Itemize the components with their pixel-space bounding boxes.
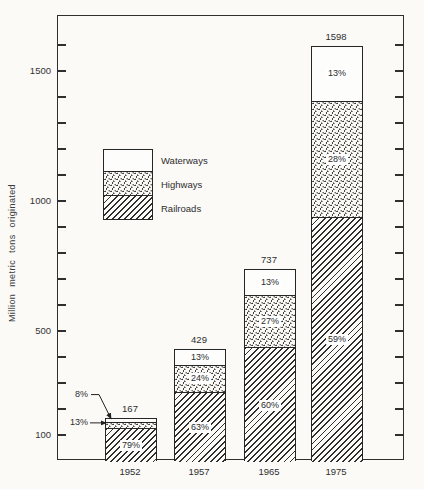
- segment-highways-1965: 27%: [245, 295, 295, 347]
- y-axis-tick-left: [58, 70, 66, 71]
- y-axis-tick-right: [395, 278, 403, 279]
- y-axis-tick-right: [395, 96, 403, 97]
- y-axis-tick-right: [395, 70, 403, 71]
- segment-railroads-1975: 59%: [312, 217, 362, 462]
- segment-waterways-1957: 13%: [175, 350, 225, 365]
- y-axis-tick-left: [58, 174, 66, 175]
- x-axis-label-1957: 1957: [169, 466, 229, 477]
- total-label-1975: 1598: [306, 31, 366, 42]
- y-axis-tick-left: [58, 408, 66, 409]
- waterways-swatch-icon: [103, 149, 153, 173]
- bar-1965: 13%27%60%: [244, 269, 296, 461]
- y-axis-tick-left: [58, 44, 66, 45]
- stacked-bar-chart-figure: Million metric tons originated 79%13%24%…: [0, 0, 424, 489]
- y-axis-tick-right: [395, 148, 403, 149]
- y-axis-tick-left: [58, 330, 66, 331]
- percent-label-highways-1975: 28%: [326, 154, 348, 165]
- y-axis-tick-right: [395, 226, 403, 227]
- y-axis-tick-left: [58, 148, 66, 149]
- legend-item-railroads: Railroads: [103, 196, 208, 220]
- y-axis-tick-left: [58, 434, 66, 435]
- percent-label-highways-1965: 27%: [259, 316, 281, 327]
- y-axis-tick-right: [395, 174, 403, 175]
- percent-label-railroads-1975: 59%: [326, 334, 348, 345]
- y-axis-tick-left: [58, 200, 66, 201]
- segment-highways-1957: 24%: [175, 365, 225, 392]
- percent-label-waterways-1975: 13%: [326, 68, 348, 79]
- segment-waterways-1965: 13%: [245, 270, 295, 295]
- bar-1952: 79%: [105, 418, 157, 461]
- y-axis-tick-left: [58, 226, 66, 227]
- legend: Waterways Highways Railroads: [103, 149, 208, 220]
- percent-label-waterways-1957: 13%: [189, 352, 211, 363]
- legend-label-highways: Highways: [161, 179, 202, 190]
- legend-item-highways: Highways: [103, 173, 208, 197]
- y-axis-tick-label: 1500: [23, 65, 51, 76]
- segment-waterways-1975: 13%: [312, 47, 362, 101]
- highways-swatch-icon: [103, 171, 153, 196]
- external-percent-label-waterways: 8%: [58, 389, 88, 400]
- y-axis-tick-right: [395, 356, 403, 357]
- total-label-1965: 737: [239, 254, 299, 265]
- segment-railroads-1965: 60%: [245, 347, 295, 462]
- segment-railroads-1952: 79%: [106, 428, 156, 462]
- segment-railroads-1957: 63%: [175, 392, 225, 462]
- bar-1975: 13%28%59%: [311, 46, 363, 461]
- y-axis-tick-left: [58, 278, 66, 279]
- plot-area: 79%13%24%63%13%27%60%13%28%59%: [57, 15, 404, 460]
- y-axis-tick-left: [58, 382, 66, 383]
- y-axis-tick-right: [395, 382, 403, 383]
- external-percent-label-highways: 13%: [58, 417, 88, 428]
- y-axis-tick-left: [58, 304, 66, 305]
- total-label-1957: 429: [169, 334, 229, 345]
- percent-label-highways-1957: 24%: [189, 373, 211, 384]
- percent-label-railroads-1957: 63%: [189, 422, 211, 433]
- y-axis-tick-label: 500: [23, 325, 51, 336]
- legend-label-railroads: Railroads: [161, 203, 201, 214]
- y-axis-tick-right: [395, 252, 403, 253]
- y-axis-tick-right: [395, 122, 403, 123]
- y-axis-tick-left: [58, 122, 66, 123]
- y-axis-tick-right: [395, 434, 403, 435]
- bar-1957: 13%24%63%: [174, 349, 226, 461]
- percent-label-railroads-1952: 79%: [120, 440, 142, 451]
- legend-item-waterways: Waterways: [103, 149, 208, 173]
- x-axis-label-1965: 1965: [239, 466, 299, 477]
- railroads-swatch-icon: [103, 195, 153, 220]
- y-axis-tick-label: 100: [23, 429, 51, 440]
- y-axis-tick-right: [395, 304, 403, 305]
- y-axis-tick-right: [395, 330, 403, 331]
- percent-label-railroads-1965: 60%: [259, 400, 281, 411]
- y-axis-tick-right: [395, 44, 403, 45]
- segment-highways-1975: 28%: [312, 101, 362, 217]
- legend-label-waterways: Waterways: [161, 155, 208, 166]
- y-axis-tick-label: 1000: [23, 195, 51, 206]
- y-axis-title: Million metric tons originated: [7, 138, 17, 368]
- total-label-1952: 167: [100, 403, 160, 414]
- y-axis-tick-left: [58, 356, 66, 357]
- x-axis-label-1952: 1952: [100, 466, 160, 477]
- percent-label-waterways-1965: 13%: [259, 277, 281, 288]
- y-axis-tick-left: [58, 252, 66, 253]
- x-axis-label-1975: 1975: [306, 466, 366, 477]
- y-axis-tick-left: [58, 96, 66, 97]
- y-axis-tick-right: [395, 408, 403, 409]
- y-axis-tick-right: [395, 200, 403, 201]
